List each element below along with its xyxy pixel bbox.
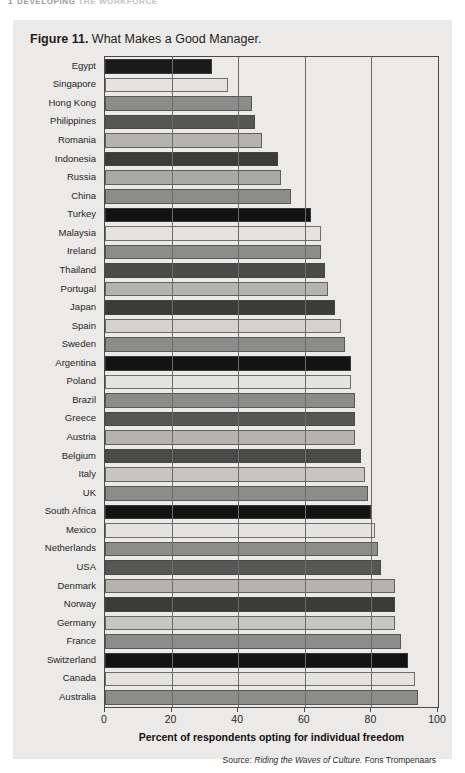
bar-row <box>105 187 438 206</box>
category-label-russia: Russia <box>13 167 101 186</box>
category-label-denmark: Denmark <box>13 576 101 595</box>
source-note: Source: Riding the Waves of Culture. Fon… <box>223 755 436 765</box>
bar-row <box>105 558 438 577</box>
bar-austria <box>105 430 355 445</box>
category-label-argentina: Argentina <box>13 353 101 372</box>
x-tick-label-100: 100 <box>428 713 446 725</box>
bar-row <box>105 131 438 150</box>
bar-brazil <box>105 393 355 408</box>
bar-canada <box>105 672 415 687</box>
bar-row <box>105 373 438 392</box>
category-label-turkey: Turkey <box>13 205 101 224</box>
category-label-brazil: Brazil <box>13 390 101 409</box>
chart-plot-wrapper: EgyptSingaporeHong KongPhilippinesRomani… <box>13 55 452 759</box>
bar-row <box>105 465 438 484</box>
category-label-hong-kong: Hong Kong <box>13 93 101 112</box>
category-label-indonesia: Indonesia <box>13 149 101 168</box>
running-header-number: 1 <box>8 0 13 6</box>
bar-row <box>105 206 438 225</box>
category-label-sweden: Sweden <box>13 334 101 353</box>
category-label-germany: Germany <box>13 613 101 632</box>
category-label-france: France <box>13 631 101 650</box>
plot-area <box>104 56 439 708</box>
bar-denmark <box>105 579 395 594</box>
bar-row <box>105 94 438 113</box>
bar-row <box>105 540 438 559</box>
category-label-spain: Spain <box>13 316 101 335</box>
bar-row <box>105 391 438 410</box>
bar-italy <box>105 467 365 482</box>
bar-greece <box>105 412 355 427</box>
bar-row <box>105 280 438 299</box>
bar-row <box>105 113 438 132</box>
bar-netherlands <box>105 542 378 557</box>
bar-china <box>105 189 291 204</box>
bar-poland <box>105 375 351 390</box>
bar-row <box>105 651 438 670</box>
category-axis-labels: EgyptSingaporeHong KongPhilippinesRomani… <box>13 56 101 706</box>
bar-japan <box>105 300 335 315</box>
running-header-main: DEVELOPING <box>17 0 75 6</box>
category-label-poland: Poland <box>13 372 101 391</box>
bar-spain <box>105 319 341 334</box>
x-axis: 020406080100 <box>104 707 439 731</box>
bar-uk <box>105 486 368 501</box>
bar-row <box>105 150 438 169</box>
category-label-mexico: Mexico <box>13 520 101 539</box>
bar-france <box>105 634 401 649</box>
bar-row <box>105 57 438 76</box>
figure-number-label: Figure 11. <box>30 32 88 46</box>
running-page-header: 1DEVELOPING THE WORKFORCE <box>8 0 158 7</box>
x-tick-80 <box>370 707 371 712</box>
gridline-40 <box>238 57 239 707</box>
source-prefix: Source: <box>223 755 255 765</box>
bar-norway <box>105 597 395 612</box>
bar-row <box>105 447 438 466</box>
bar-russia <box>105 170 281 185</box>
category-label-china: China <box>13 186 101 205</box>
bar-ireland <box>105 245 321 260</box>
bar-portugal <box>105 282 328 297</box>
category-label-norway: Norway <box>13 594 101 613</box>
bar-row <box>105 298 438 317</box>
bar-indonesia <box>105 152 278 167</box>
x-tick-0 <box>104 707 105 712</box>
x-tick-label-20: 20 <box>165 713 177 725</box>
bar-row <box>105 632 438 651</box>
bar-row <box>105 335 438 354</box>
bar-row <box>105 595 438 614</box>
bar-switzerland <box>105 653 408 668</box>
bar-usa <box>105 560 381 575</box>
bar-row <box>105 688 438 707</box>
bar-row <box>105 224 438 243</box>
source-author: Fons Trompenaars <box>362 755 436 765</box>
bar-row <box>105 484 438 503</box>
bar-row <box>105 503 438 522</box>
category-label-austria: Austria <box>13 427 101 446</box>
gridline-60 <box>305 57 306 707</box>
figure-panel: Figure 11. What Makes a Good Manager. Eg… <box>13 20 452 759</box>
bar-row <box>105 168 438 187</box>
bar-belgium <box>105 449 361 464</box>
bar-row <box>105 577 438 596</box>
figure-caption: Figure 11. What Makes a Good Manager. <box>30 32 261 46</box>
bar-germany <box>105 616 395 631</box>
x-tick-100 <box>437 707 438 712</box>
category-label-uk: UK <box>13 483 101 502</box>
category-label-belgium: Belgium <box>13 446 101 465</box>
figure-title-text: What Makes a Good Manager. <box>88 32 261 46</box>
bar-row <box>105 410 438 429</box>
bar-row <box>105 521 438 540</box>
bar-sweden <box>105 337 345 352</box>
bar-row <box>105 614 438 633</box>
category-label-romania: Romania <box>13 130 101 149</box>
category-label-egypt: Egypt <box>13 56 101 75</box>
bar-egypt <box>105 59 212 74</box>
category-label-japan: Japan <box>13 297 101 316</box>
category-label-singapore: Singapore <box>13 75 101 94</box>
category-label-switzerland: Switzerland <box>13 650 101 669</box>
category-label-canada: Canada <box>13 669 101 688</box>
bar-turkey <box>105 208 311 223</box>
category-label-malaysia: Malaysia <box>13 223 101 242</box>
x-tick-40 <box>237 707 238 712</box>
